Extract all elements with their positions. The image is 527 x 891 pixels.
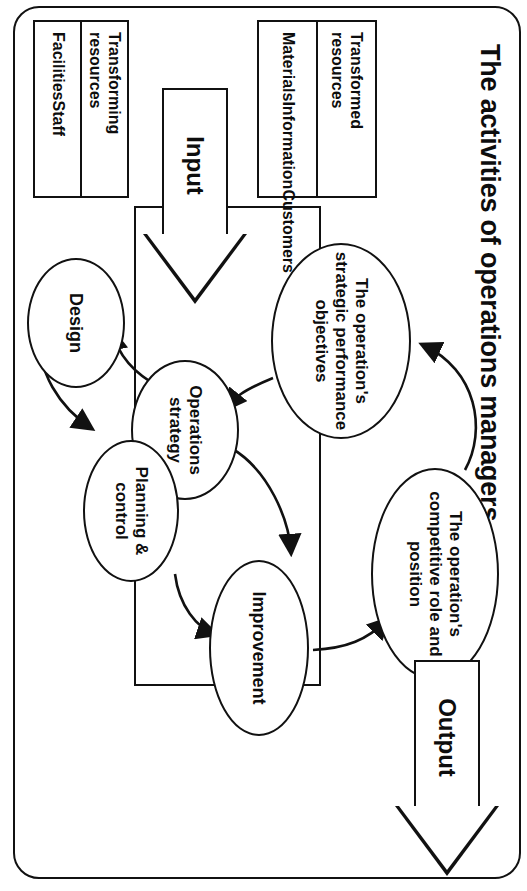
rotated-diagram: The activities of operations managers <box>0 0 527 891</box>
input-arrow-head-fill <box>147 234 243 298</box>
node-strategic-objectives-label: The operation's strategic performance ob… <box>311 245 370 437</box>
output-arrow: Output <box>395 660 499 875</box>
transformed-resources-items: MaterialsInformationCustomers <box>259 22 318 196</box>
transforming-resources-box: Transforming resources FacilitiesStaff <box>33 20 129 198</box>
node-competitive-role-label: The operation's competitive role and pos… <box>405 470 464 678</box>
node-planning-control-label: Planning & control <box>111 442 150 580</box>
node-planning-control: Planning & control <box>83 440 179 582</box>
transformed-resources-box: Transformed resources MaterialsInformati… <box>257 20 377 198</box>
node-improvement-label: Improvement <box>249 585 270 710</box>
figure-title: The activities of operations managers <box>474 44 505 521</box>
output-arrow-head-fill <box>399 806 495 870</box>
node-competitive-role: The operation's competitive role and pos… <box>371 468 499 680</box>
input-label: Input <box>181 136 209 195</box>
transforming-resources-heading: Transforming resources <box>82 22 127 196</box>
node-design-label: Design <box>66 287 87 359</box>
input-arrow: Input <box>143 88 247 303</box>
transformed-resources-heading: Transformed resources <box>318 22 375 196</box>
node-improvement: Improvement <box>209 560 309 736</box>
output-label: Output <box>433 698 461 777</box>
figure-canvas: The activities of operations managers <box>0 0 527 891</box>
input-arrow-shaft: Input <box>162 88 228 243</box>
node-design: Design <box>27 258 125 388</box>
output-arrow-shaft: Output <box>414 660 480 815</box>
transforming-resources-items: FacilitiesStaff <box>35 22 82 196</box>
